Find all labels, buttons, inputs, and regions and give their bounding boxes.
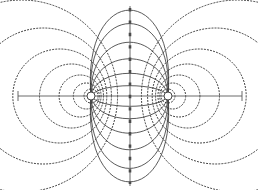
equipotential-right-group [141, 0, 258, 190]
dipole-field-diagram [0, 0, 258, 190]
charge-right [164, 92, 172, 100]
charge-left [87, 92, 95, 100]
diagram-canvas [0, 0, 258, 190]
